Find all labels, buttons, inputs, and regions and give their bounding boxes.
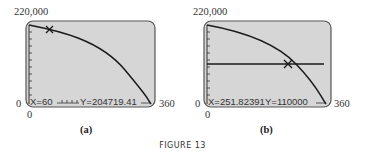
screen-b: X=251.82391 Y=110000 [204,21,331,107]
figure-title: FIGURE 13 [27,139,337,150]
screen-a-frame [26,21,155,107]
readout-x: X=60 [30,96,52,107]
readout-y: Y=110000 [265,96,308,107]
readout-x: X=251.82391 [208,96,265,107]
screen-a: X=60 Y=204719.41 [26,21,155,107]
calculator-screens: X=60 Y=204719.41 X=251.82391 Y=110000 [0,0,365,162]
readout-y: Y=204719.41 [80,96,137,107]
